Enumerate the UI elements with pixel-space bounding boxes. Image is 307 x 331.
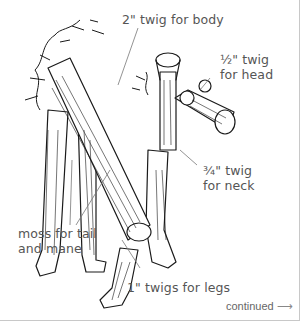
label-neck-line1: ¾" twig [203, 163, 252, 178]
eye [180, 91, 194, 105]
arrow-right-icon: ⟶ [277, 300, 293, 312]
continued-link[interactable]: continued ⟶ [226, 300, 293, 313]
neck-top [156, 53, 180, 67]
label-moss-line1: moss for tail [18, 226, 97, 241]
label-neck-line2: for neck [203, 178, 255, 193]
leader-body [118, 28, 138, 85]
label-legs: 1" twigs for legs [127, 280, 230, 295]
label-body: 2" twig for body [122, 12, 224, 27]
ear [199, 80, 211, 92]
front-leg-right [146, 150, 176, 268]
neck-twig [160, 72, 176, 150]
body-log-end [127, 223, 151, 241]
leader-neck [180, 150, 197, 165]
label-moss-line2: and mane [18, 241, 82, 256]
leader-moss-1 [70, 160, 72, 225]
label-head-line1: ½" twig [220, 52, 269, 67]
continued-label: continued [226, 300, 274, 312]
front-leg-left [100, 248, 138, 308]
label-head-line2: for head [220, 67, 273, 82]
